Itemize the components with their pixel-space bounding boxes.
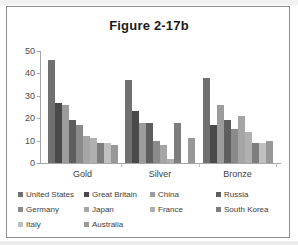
- legend-item[interactable]: United States: [18, 190, 84, 199]
- scanned-page: Figure 2-17b 01020304050 GoldSilverBronz…: [0, 0, 298, 245]
- x-axis-category-label: Silver: [125, 169, 195, 179]
- legend-row: ItalyAustralia: [18, 217, 282, 232]
- legend-label: Japan: [92, 205, 114, 214]
- bar[interactable]: [167, 159, 174, 163]
- y-axis-tick-label: 10: [25, 136, 35, 146]
- bar[interactable]: [174, 123, 181, 163]
- bar[interactable]: [139, 123, 146, 163]
- bar[interactable]: [238, 116, 245, 163]
- bar[interactable]: [55, 103, 62, 163]
- bar[interactable]: [224, 120, 231, 163]
- legend-item[interactable]: Russia: [216, 190, 282, 199]
- legend-label: South Korea: [224, 205, 268, 214]
- legend-row: United StatesGreat BritainChinaRussia: [18, 187, 282, 202]
- bar[interactable]: [259, 143, 266, 163]
- bar[interactable]: [76, 125, 83, 163]
- legend-swatch-icon: [216, 192, 221, 197]
- legend-label: Australia: [92, 220, 123, 229]
- x-axis-category-label: Gold: [48, 169, 118, 179]
- legend-swatch-icon: [150, 192, 155, 197]
- x-axis-tick-mark: [276, 163, 277, 167]
- bar[interactable]: [90, 138, 97, 163]
- bar[interactable]: [266, 141, 273, 163]
- bar-group-silver: [125, 51, 195, 163]
- y-axis-tick-label: 40: [25, 68, 35, 78]
- bar[interactable]: [217, 105, 224, 163]
- bar[interactable]: [111, 145, 118, 163]
- bar[interactable]: [132, 111, 139, 163]
- plot-area: [40, 51, 280, 163]
- bar[interactable]: [146, 123, 153, 163]
- bar[interactable]: [62, 105, 69, 163]
- bar-group-bronze: [203, 51, 273, 163]
- bar[interactable]: [252, 143, 259, 163]
- chart-title: Figure 2-17b: [7, 18, 291, 33]
- x-axis-tick-mark: [199, 163, 200, 167]
- legend-label: Russia: [224, 190, 248, 199]
- bar[interactable]: [245, 132, 252, 163]
- bar[interactable]: [104, 143, 111, 163]
- bar[interactable]: [125, 80, 132, 163]
- bar[interactable]: [231, 129, 238, 163]
- legend-item[interactable]: China: [150, 190, 216, 199]
- x-axis-tick-mark: [121, 163, 122, 167]
- y-axis-tick-label: 20: [25, 113, 35, 123]
- scan-artifact-bottom: [0, 241, 298, 245]
- legend-swatch-icon: [84, 222, 89, 227]
- bar[interactable]: [188, 138, 195, 163]
- legend-swatch-icon: [84, 192, 89, 197]
- bar[interactable]: [160, 145, 167, 163]
- legend-label: China: [158, 190, 179, 199]
- legend-swatch-icon: [18, 222, 23, 227]
- legend-swatch-icon: [84, 207, 89, 212]
- bar[interactable]: [203, 78, 210, 163]
- chart-legend: United StatesGreat BritainChinaRussiaGer…: [18, 187, 282, 232]
- y-axis-tick-label: 0: [30, 158, 35, 168]
- x-axis-category-label: Bronze: [203, 169, 273, 179]
- legend-label: France: [158, 205, 183, 214]
- legend-item[interactable]: Italy: [18, 220, 84, 229]
- legend-swatch-icon: [150, 207, 155, 212]
- bar-group-gold: [48, 51, 118, 163]
- legend-item[interactable]: Germany: [18, 205, 84, 214]
- legend-item[interactable]: South Korea: [216, 205, 282, 214]
- bar[interactable]: [83, 136, 90, 163]
- legend-swatch-icon: [18, 207, 23, 212]
- chart-frame: Figure 2-17b 01020304050 GoldSilverBronz…: [6, 6, 290, 238]
- bar[interactable]: [48, 60, 55, 163]
- bar[interactable]: [210, 125, 217, 163]
- y-axis-tick-label: 50: [25, 46, 35, 56]
- legend-item[interactable]: Great Britain: [84, 190, 150, 199]
- x-axis-line: [40, 163, 281, 164]
- legend-label: Italy: [26, 220, 41, 229]
- bar[interactable]: [153, 141, 160, 163]
- scan-artifact-top: [0, 0, 298, 5]
- legend-row: GermanyJapanFranceSouth Korea: [18, 202, 282, 217]
- bar[interactable]: [69, 120, 76, 163]
- bar[interactable]: [97, 143, 104, 163]
- legend-label: Great Britain: [92, 190, 137, 199]
- legend-swatch-icon: [216, 207, 221, 212]
- legend-item[interactable]: Australia: [84, 220, 150, 229]
- legend-item[interactable]: France: [150, 205, 216, 214]
- legend-item[interactable]: Japan: [84, 205, 150, 214]
- legend-swatch-icon: [18, 192, 23, 197]
- y-axis-tick-label: 30: [25, 91, 35, 101]
- legend-label: Germany: [26, 205, 59, 214]
- legend-label: United States: [26, 190, 74, 199]
